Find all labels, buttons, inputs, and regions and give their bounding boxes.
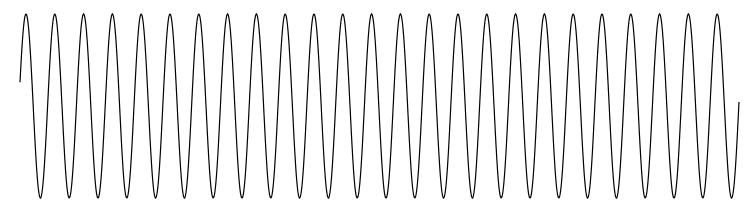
sine-wave-line <box>20 14 739 198</box>
waveform-plot <box>0 0 756 205</box>
